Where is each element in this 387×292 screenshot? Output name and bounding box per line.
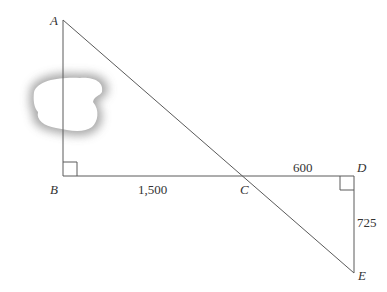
lake-shape: [30, 73, 109, 135]
point-label-A: A: [49, 13, 58, 28]
right-angle-D: [340, 176, 354, 190]
measure-DE: 725: [357, 215, 377, 230]
measure-BC: 1,500: [138, 182, 167, 197]
point-label-D: D: [356, 160, 367, 175]
point-label-B: B: [50, 182, 58, 197]
point-label-C: C: [240, 182, 249, 197]
right-angle-B: [63, 162, 77, 176]
point-label-E: E: [357, 268, 366, 283]
measure-CD: 600: [293, 160, 313, 175]
segment-AE: [63, 20, 354, 273]
diagram-canvas: A B C D E 1,500 600 725: [0, 0, 387, 292]
